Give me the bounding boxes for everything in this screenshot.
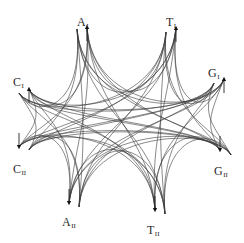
nucleotide-connection-diagram: AI TI CI GI CII GII AII TII [0, 0, 244, 243]
node-label-t-ii: TII [147, 224, 160, 238]
node-label-g-i: GI [208, 67, 220, 81]
node-label-a-ii: AII [62, 216, 76, 230]
node-label-c-i: CI [13, 76, 24, 90]
node-label-g-ii: GII [214, 165, 228, 179]
node-label-c-ii: CII [13, 163, 26, 177]
node-label-t-i: TI [166, 16, 176, 30]
curve-network [0, 0, 244, 243]
connection-curves [19, 27, 231, 214]
node-label-a-i: AI [77, 16, 89, 30]
